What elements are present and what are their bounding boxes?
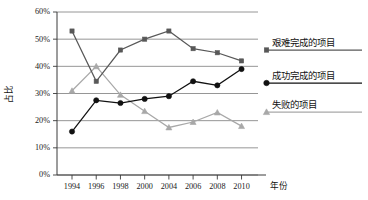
data-point-circle xyxy=(94,98,99,103)
y-tick-label: 40% xyxy=(35,62,50,71)
y-tick-label: 50% xyxy=(35,35,50,44)
y-tick-label: 30% xyxy=(35,89,50,98)
data-point-circle xyxy=(190,79,195,84)
x-tick-label: 2004 xyxy=(161,182,177,191)
data-point-square xyxy=(215,51,219,55)
x-tick-label: 2010 xyxy=(233,182,249,191)
data-point-circle xyxy=(239,66,244,71)
x-axis-title: 年份 xyxy=(270,180,288,191)
chart-canvas: 0%10%20%30%40%50%60% 1994199619982000200… xyxy=(0,0,368,200)
line-chart: 0%10%20%30%40%50%60% 1994199619982000200… xyxy=(0,0,368,200)
data-point-square xyxy=(191,47,195,51)
data-point-square xyxy=(143,37,147,41)
data-point-circle xyxy=(69,129,74,134)
x-tick-label: 1998 xyxy=(112,182,128,191)
y-tick-label: 60% xyxy=(35,7,50,16)
data-point-square xyxy=(94,79,98,83)
data-point-circle xyxy=(215,83,220,88)
x-tick-label: 2006 xyxy=(185,182,201,191)
x-tick-label: 2000 xyxy=(136,182,152,191)
y-tick-label: 20% xyxy=(35,116,50,125)
data-point-circle xyxy=(166,94,171,99)
data-point-square xyxy=(70,29,74,33)
y-tick-label: 10% xyxy=(35,143,50,152)
y-axis-title: 占比 xyxy=(3,85,14,103)
x-tick-label: 1996 xyxy=(88,182,104,191)
data-point-square xyxy=(167,29,171,33)
y-tick-label: 0% xyxy=(39,170,50,179)
data-point-circle xyxy=(118,100,123,105)
data-point-square xyxy=(239,59,243,63)
legend-label: 艰难完成的项目 xyxy=(272,37,335,48)
data-point-square xyxy=(118,48,122,52)
data-point-circle xyxy=(264,80,269,85)
data-point-circle xyxy=(142,96,147,101)
x-tick-label: 1994 xyxy=(64,182,80,191)
data-point-square xyxy=(264,48,268,52)
legend-label: 失败的项目 xyxy=(272,99,317,110)
legend-label: 成功完成的项目 xyxy=(272,70,335,81)
x-tick-label: 2008 xyxy=(209,182,225,191)
